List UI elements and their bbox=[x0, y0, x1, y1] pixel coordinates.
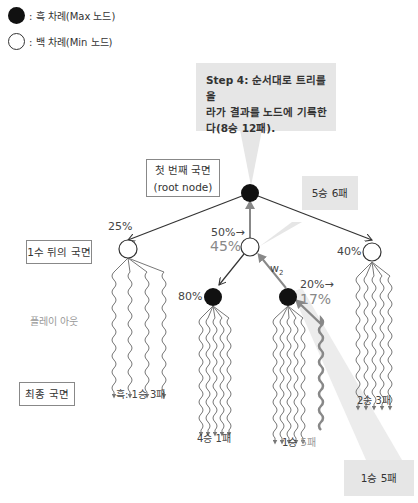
playout-label: 플레이 아웃 bbox=[30, 313, 78, 328]
mid-right-playouts bbox=[273, 306, 305, 442]
right-node-pct: 40% bbox=[337, 245, 361, 258]
root-result-callout-pointer bbox=[260, 222, 302, 246]
root-node bbox=[241, 184, 259, 202]
final-position-label: 최종 국면 bbox=[19, 382, 75, 406]
mid-left-playouts bbox=[199, 306, 231, 434]
left-min-node bbox=[119, 240, 137, 258]
root-result-callout: 5승 6패 bbox=[302, 176, 358, 210]
edge-middle-midleft bbox=[219, 254, 244, 285]
after-one-move-label: 1수 뒤의 국면 bbox=[26, 240, 92, 264]
black-circle-icon bbox=[8, 7, 25, 24]
middle-min-node bbox=[241, 238, 259, 256]
step4-callout-pointer bbox=[240, 130, 262, 186]
playout-result-callout: 1승 5패 bbox=[344, 460, 414, 496]
mid-right-max-node bbox=[279, 288, 297, 306]
edge-weight-label: w2 bbox=[270, 262, 283, 277]
right-result: 2승 3패 bbox=[357, 392, 391, 407]
legend-max: : 흑 차례(Max 노드) bbox=[8, 7, 115, 24]
white-circle-icon bbox=[8, 33, 25, 50]
mid-right-node-pct-after: 17% bbox=[300, 291, 331, 307]
mid-right-result: 1승 5패 bbox=[282, 434, 316, 449]
step4-callout: Step 4: 순서대로 트리를 올 라가 결과를 노드에 기록한 다(8승 1… bbox=[196, 63, 336, 131]
middle-node-pct-after: 45% bbox=[210, 238, 241, 254]
mid-right-node-pct-before: 20%→ bbox=[300, 278, 334, 291]
mid-left-max-node bbox=[204, 288, 222, 306]
mid-left-node-pct: 80% bbox=[178, 290, 202, 303]
mid-left-result: 4승 1패 bbox=[197, 430, 231, 445]
left-node-pct: 25% bbox=[108, 220, 132, 233]
legend-min: : 백 차례(Min 노드) bbox=[8, 33, 112, 50]
root-node-label: 첫 번째 국면 (root node) bbox=[146, 159, 220, 197]
right-playouts bbox=[356, 262, 392, 408]
left-result: 흑: 1승 3패 bbox=[116, 386, 165, 401]
right-min-node bbox=[363, 243, 381, 261]
left-playouts bbox=[112, 258, 166, 396]
